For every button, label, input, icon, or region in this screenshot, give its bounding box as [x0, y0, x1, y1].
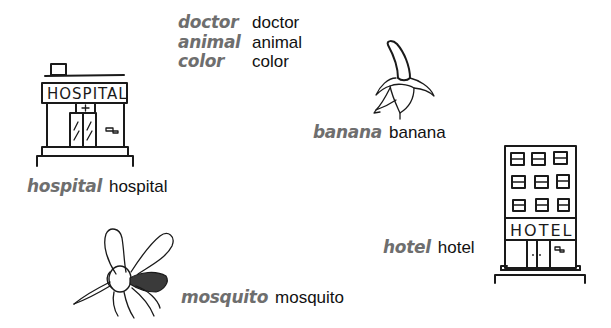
vocab-term: animal — [178, 33, 252, 53]
hospital-label: hospitalhospital — [27, 176, 168, 197]
mosquito-icon — [0, 0, 1, 1]
hospital-sign-text: HOSPITAL — [47, 85, 128, 103]
hotel-translation: hotel — [438, 238, 475, 257]
vocab-translation: animal — [252, 33, 302, 53]
vocab-row-color: color color — [178, 52, 302, 72]
hospital-term: hospital — [27, 176, 102, 196]
mosquito-term: mosquito — [181, 287, 268, 307]
vocab-term: doctor — [178, 13, 252, 33]
hotel-label: hotelhotel — [383, 237, 475, 258]
banana-translation: banana — [389, 123, 446, 142]
vocab-row-doctor: doctor doctor — [178, 13, 302, 33]
vocab-list: doctor doctor animal animal color color — [178, 13, 302, 72]
banana-term: banana — [313, 122, 382, 142]
vocab-translation: doctor — [252, 13, 299, 33]
hotel-sign-text: HOTEL — [510, 221, 573, 240]
hospital-translation: hospital — [109, 177, 168, 196]
vocab-row-animal: animal animal — [178, 33, 302, 53]
banana-label: bananabanana — [313, 122, 446, 143]
mosquito-translation: mosquito — [275, 288, 344, 307]
mosquito-label: mosquitomosquito — [181, 287, 344, 308]
vocab-term: color — [178, 52, 252, 72]
hotel-term: hotel — [383, 237, 431, 257]
vocab-translation: color — [252, 52, 289, 72]
